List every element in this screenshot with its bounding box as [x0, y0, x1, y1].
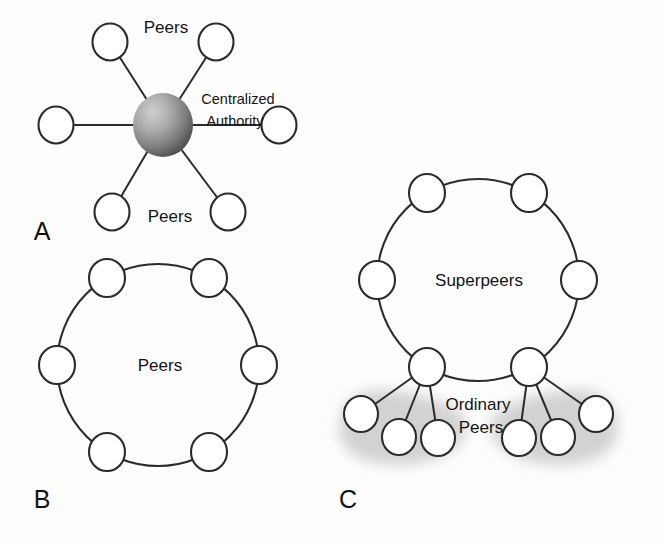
- peer-node[interactable]: [191, 259, 227, 297]
- centralized-authority-grain: [133, 93, 193, 157]
- panel-a-peers-label-top: Peers: [144, 18, 188, 37]
- p2p-architecture-figure: Peers Centralized Authority Peers A Peer…: [0, 0, 664, 545]
- ordinary-peer-node[interactable]: [502, 420, 536, 456]
- superpeer-node[interactable]: [511, 174, 547, 212]
- superpeer-node[interactable]: [409, 348, 445, 386]
- superpeer-node[interactable]: [511, 348, 547, 386]
- peer-node[interactable]: [191, 433, 227, 471]
- ordinary-peer-node[interactable]: [579, 396, 613, 432]
- panel-b-peers-label: Peers: [138, 356, 182, 375]
- peer-node[interactable]: [199, 24, 234, 61]
- peer-node[interactable]: [95, 194, 130, 231]
- superpeers-label: Superpeers: [435, 271, 523, 290]
- peer-node[interactable]: [262, 107, 297, 144]
- peer-node[interactable]: [241, 346, 277, 384]
- ordinary-peer-node[interactable]: [344, 396, 378, 432]
- ordinary-peer-node[interactable]: [541, 419, 575, 455]
- ordinary-peer-node[interactable]: [382, 419, 416, 455]
- ordinary-peers-label-line1: Ordinary: [445, 395, 511, 414]
- peer-node[interactable]: [211, 194, 246, 231]
- peer-node[interactable]: [39, 107, 74, 144]
- superpeer-node[interactable]: [359, 261, 395, 299]
- figure-root: Peers Centralized Authority Peers A Peer…: [0, 0, 664, 545]
- panel-letter-b: B: [34, 485, 51, 513]
- panel-letter-a: A: [34, 217, 51, 245]
- panel-letter-c: C: [339, 485, 357, 513]
- superpeer-node[interactable]: [561, 261, 597, 299]
- peer-node[interactable]: [89, 433, 125, 471]
- centralized-authority-label-line1: Centralized: [201, 91, 274, 107]
- ordinary-peer-node[interactable]: [421, 420, 455, 456]
- peer-node[interactable]: [93, 24, 128, 61]
- peer-node[interactable]: [39, 346, 75, 384]
- ordinary-peers-label-line2: Peers: [459, 418, 503, 437]
- panel-a-peers-label-bottom: Peers: [148, 207, 192, 226]
- peer-node[interactable]: [89, 259, 125, 297]
- centralized-authority-label-line2: Authority: [206, 113, 264, 129]
- superpeer-node[interactable]: [409, 174, 445, 212]
